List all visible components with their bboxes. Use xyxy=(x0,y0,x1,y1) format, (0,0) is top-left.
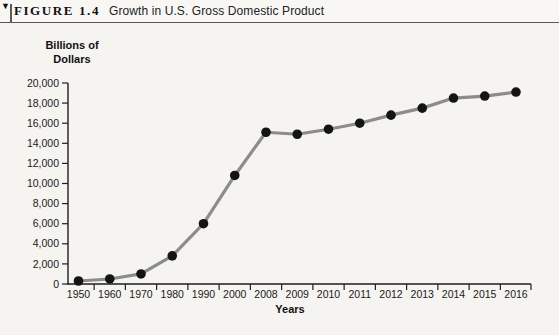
data-point xyxy=(449,93,459,103)
x-tick-label: 2014 xyxy=(442,288,466,300)
data-point xyxy=(167,251,177,261)
x-tick-label: 1950 xyxy=(67,288,91,300)
x-tick-label: 2012 xyxy=(379,288,403,300)
y-tick-label: 12,000 xyxy=(27,157,59,169)
data-point xyxy=(417,103,427,113)
x-tick-label: 1980 xyxy=(161,288,185,300)
x-tick-label: 1970 xyxy=(129,288,153,300)
x-tick-label: 2016 xyxy=(504,288,528,300)
figure-panel: ▼ FIGURE 1.4 Growth in U.S. Gross Domest… xyxy=(0,0,559,335)
data-point xyxy=(74,276,84,286)
x-tick-label: 2010 xyxy=(317,288,341,300)
x-tick-label: 2015 xyxy=(473,288,497,300)
gdp-line-chart: 02,0004,0006,0008,00010,00012,00014,0001… xyxy=(0,0,559,335)
data-point xyxy=(199,219,209,229)
data-point xyxy=(355,118,365,128)
y-tick-label: 16,000 xyxy=(27,117,59,129)
data-point xyxy=(230,171,240,181)
data-point xyxy=(292,129,302,139)
y-tick-label: 0 xyxy=(53,278,59,290)
y-tick-label: 6,000 xyxy=(33,217,59,229)
x-tick-label: 2000 xyxy=(223,288,247,300)
data-point xyxy=(261,127,271,137)
data-point xyxy=(511,87,521,97)
y-tick-label: 18,000 xyxy=(27,97,59,109)
y-tick-label: 2,000 xyxy=(33,258,59,270)
x-tick-label: 2009 xyxy=(286,288,310,300)
data-point xyxy=(136,269,146,279)
x-tick-label: 1990 xyxy=(192,288,216,300)
data-point xyxy=(480,91,490,101)
data-point xyxy=(324,124,334,134)
y-tick-label: 8,000 xyxy=(33,197,59,209)
x-tick-label: 2011 xyxy=(348,288,371,300)
x-tick-label: 1960 xyxy=(98,288,122,300)
x-tick-label: 2008 xyxy=(254,288,278,300)
data-point xyxy=(386,110,396,120)
y-tick-label: 14,000 xyxy=(27,137,59,149)
x-tick-label: 2013 xyxy=(411,288,435,300)
x-axis-title: Years xyxy=(240,303,340,315)
gdp-line xyxy=(79,92,517,281)
y-tick-label: 4,000 xyxy=(33,237,59,249)
y-tick-label: 10,000 xyxy=(27,177,59,189)
y-tick-label: 20,000 xyxy=(27,77,59,89)
data-point xyxy=(105,274,115,284)
